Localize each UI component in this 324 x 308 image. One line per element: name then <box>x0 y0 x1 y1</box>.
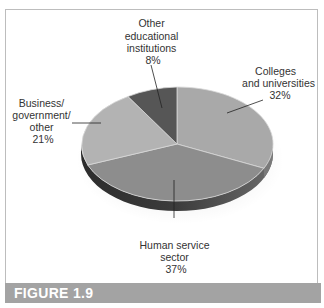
figure-caption-bar: FIGURE 1.9 <box>5 283 321 303</box>
label-colleges: Colleges and universities 32% <box>242 65 318 101</box>
label-business: Business/ government/ other 21% <box>12 97 73 145</box>
figure-label: FIGURE 1.9 <box>14 285 93 301</box>
label-other: Other educational institutions 8% <box>125 17 182 66</box>
pie-chart: Other educational institutions 8% Colleg… <box>0 0 324 308</box>
label-human-service: Human service sector 37% <box>140 239 213 275</box>
